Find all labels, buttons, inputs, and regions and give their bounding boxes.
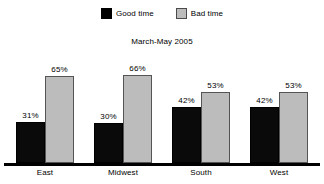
bar-rect-bad-south — [201, 92, 230, 163]
bar-value-bad-south: 53% — [207, 81, 223, 90]
bar-rect-good-west — [250, 107, 279, 163]
bar-good-midwest: 30% — [94, 56, 123, 163]
chart-legend: Good time Bad time — [0, 8, 324, 19]
legend-label-good-time: Good time — [116, 9, 154, 18]
x-axis-label-west: West — [240, 168, 318, 178]
bar-rect-good-east — [16, 122, 45, 163]
bar-group-west: 42% 53% — [240, 56, 318, 163]
bar-rect-good-midwest — [94, 123, 123, 163]
bar-value-good-midwest: 30% — [100, 112, 116, 121]
x-axis-label-east: East — [6, 168, 84, 178]
gray-square-icon — [176, 8, 187, 19]
bar-bad-south: 53% — [201, 56, 230, 163]
bar-value-bad-east: 65% — [51, 65, 67, 74]
bar-rect-good-south — [172, 107, 201, 163]
x-axis-line — [4, 163, 320, 166]
bar-chart: Good time Bad time March-May 2005 31% 65… — [0, 0, 324, 184]
legend-label-bad-time: Bad time — [191, 9, 223, 18]
bar-group-east: 31% 65% — [6, 56, 84, 163]
x-axis-label-midwest: Midwest — [84, 168, 162, 178]
plot-area: 31% 65% 30% 66% 42% 53% — [6, 56, 318, 163]
bar-value-bad-midwest: 66% — [129, 64, 145, 73]
bar-value-good-west: 42% — [256, 96, 272, 105]
bar-group-midwest: 30% 66% — [84, 56, 162, 163]
bar-value-bad-west: 53% — [285, 81, 301, 90]
bar-good-west: 42% — [250, 56, 279, 163]
bar-good-east: 31% — [16, 56, 45, 163]
chart-subtitle: March-May 2005 — [0, 37, 324, 47]
bar-bad-east: 65% — [45, 56, 74, 163]
x-axis-labels: East Midwest South West — [6, 168, 318, 178]
bar-value-good-east: 31% — [22, 111, 38, 120]
bar-rect-bad-west — [279, 92, 308, 163]
bar-rect-bad-midwest — [123, 75, 152, 163]
legend-item-good-time: Good time — [101, 8, 154, 19]
bar-rect-bad-east — [45, 76, 74, 163]
x-axis-label-south: South — [162, 168, 240, 178]
bar-bad-midwest: 66% — [123, 56, 152, 163]
bar-group-south: 42% 53% — [162, 56, 240, 163]
black-square-icon — [101, 8, 112, 19]
bar-value-good-south: 42% — [178, 96, 194, 105]
bar-good-south: 42% — [172, 56, 201, 163]
bar-bad-west: 53% — [279, 56, 308, 163]
legend-item-bad-time: Bad time — [176, 8, 223, 19]
